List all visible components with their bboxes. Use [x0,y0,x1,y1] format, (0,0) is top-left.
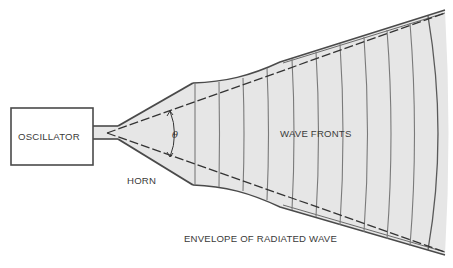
theta-label: θ [172,129,178,140]
horn-body [118,83,193,185]
wave-front [219,82,220,187]
horn-label: HORN [127,175,156,186]
horn-antenna-diagram: θ OSCILLATOR HORN WAVE FRONTS ENVELOPE O… [0,0,453,268]
wave-fronts-label: WAVE FRONTS [280,128,352,139]
envelope-label: ENVELOPE OF RADIATED WAVE [184,233,337,244]
feed-tube [93,126,118,139]
oscillator-label: OSCILLATOR [18,131,80,142]
